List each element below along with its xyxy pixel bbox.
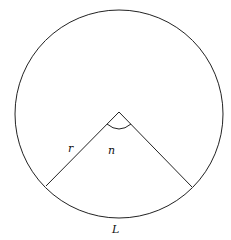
circle-sector-diagram: r n L [0, 0, 231, 240]
angle-arc-marker [107, 124, 131, 129]
angle-label: n [108, 144, 115, 157]
arc-length-label: L [111, 223, 119, 236]
radius-label: r [68, 142, 74, 155]
radius-right [119, 112, 192, 187]
